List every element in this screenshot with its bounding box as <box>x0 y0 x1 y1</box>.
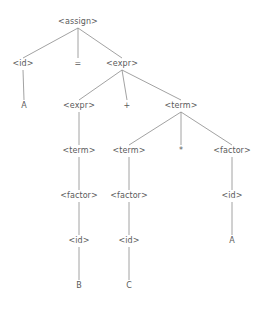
tree-edge <box>122 70 181 100</box>
tree-node-n17: A <box>229 236 235 246</box>
tree-edge <box>122 70 127 100</box>
tree-node-n5: <expr> <box>63 101 95 111</box>
tree-edge <box>181 112 232 145</box>
tree-node-n1: <id> <box>12 59 33 69</box>
tree-edge <box>129 112 181 145</box>
tree-node-n8: <term> <box>62 146 95 156</box>
tree-node-n4: A <box>21 101 27 111</box>
tree-edge <box>78 28 122 58</box>
tree-node-n3: <expr> <box>106 59 138 69</box>
tree-node-n6: + <box>124 101 131 111</box>
tree-node-n0: <assign> <box>58 17 98 27</box>
tree-node-n13: <factor> <box>110 191 148 201</box>
tree-node-n11: <factor> <box>213 146 251 156</box>
tree-node-n14: <id> <box>221 191 242 201</box>
tree-node-n10: * <box>179 146 183 156</box>
tree-node-n9: <term> <box>112 146 145 156</box>
tree-node-n7: <term> <box>164 101 197 111</box>
parse-tree-diagram: <assign><id>=<expr>A<expr>+<term><term><… <box>0 0 259 309</box>
tree-edge <box>23 28 78 58</box>
tree-node-n12: <factor> <box>60 191 98 201</box>
tree-edge <box>79 70 122 100</box>
tree-node-n2: = <box>75 59 82 69</box>
tree-node-n18: B <box>76 281 82 291</box>
tree-node-n16: <id> <box>118 236 139 246</box>
tree-node-n15: <id> <box>68 236 89 246</box>
tree-node-n19: C <box>126 281 132 291</box>
tree-edge <box>23 70 24 100</box>
